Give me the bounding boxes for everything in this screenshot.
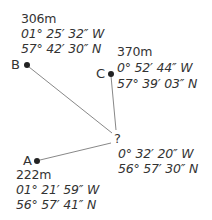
point-b-altitude: 306m — [21, 11, 56, 26]
point-b-longitude: 01° 25′ 32″ W — [21, 26, 104, 41]
unknown-point-latitude: 56° 57′ 30″ N — [118, 161, 198, 176]
unknown-point-label: ? — [114, 131, 121, 146]
point-c-longitude: 0° 52′ 44″ W — [117, 60, 192, 75]
point-a-latitude: 56° 57′ 41″ N — [16, 197, 96, 212]
point-b-label: B — [11, 57, 20, 72]
point-c-dot — [108, 71, 114, 77]
point-c-latitude: 57° 39′ 03″ N — [117, 76, 197, 91]
point-a-altitude: 222m — [16, 167, 51, 182]
unknown-point-longitude: 0° 32′ 20″ W — [118, 146, 193, 161]
point-c-label: C — [96, 66, 105, 81]
point-c-altitude: 370m — [117, 44, 152, 59]
point-a-label: A — [23, 153, 32, 168]
point-b-latitude: 57° 42′ 30″ N — [21, 41, 101, 56]
line-a-to-unknown — [40, 143, 111, 160]
point-a-dot — [34, 158, 40, 164]
line-c-to-unknown — [111, 76, 116, 130]
point-b-dot — [24, 62, 30, 68]
point-a-longitude: 01° 21′ 59″ W — [16, 182, 99, 197]
